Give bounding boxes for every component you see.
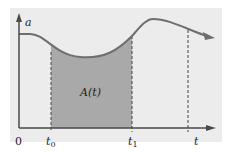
area-under-curve-diagram: a A(t) 0 t0 t1 t bbox=[0, 0, 233, 152]
y-axis-label: a bbox=[25, 16, 32, 29]
origin-label: 0 bbox=[15, 135, 22, 148]
t-axis-label: t bbox=[194, 135, 199, 148]
region-label: A(t) bbox=[79, 86, 101, 99]
